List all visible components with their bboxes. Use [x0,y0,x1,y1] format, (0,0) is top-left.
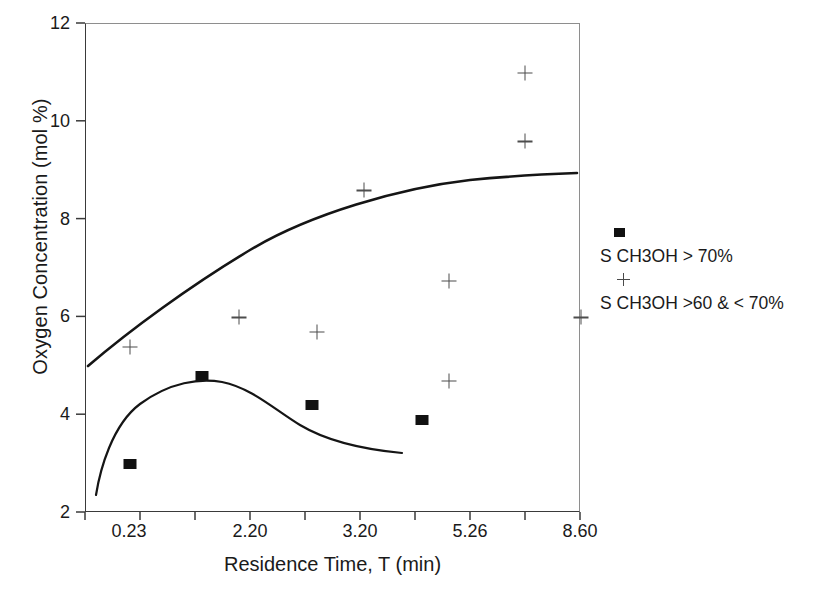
y-tick-label-2: 2 [36,502,70,523]
y-tick-label-12: 12 [36,13,70,34]
data-point-square-2 [305,400,318,410]
y-tick-label-8: 8 [36,208,70,229]
x-tick-label-3.20: 3.20 [342,521,377,542]
x-axis-title: Residence Time, T (min) [85,553,580,576]
data-point-plus-6 [518,65,533,80]
x-tick-label-5.26: 5.26 [452,521,487,542]
plus-icon [617,273,630,286]
data-point-plus-5 [442,373,457,388]
data-point-plus-1 [231,310,246,325]
data-point-plus-2 [310,325,325,340]
chart-legend: S CH3OH > 70% S CH3OH >60 & < 70% [600,222,818,316]
legend-entry-s-ch3oh-gt-70[interactable]: S CH3OH > 70% [600,222,818,267]
legend-label-s-ch3oh-60-70: S CH3OH >60 & < 70% [600,292,818,314]
x-tick-label-0.23: 0.23 [111,521,146,542]
legend-entry-s-ch3oh-60-70[interactable]: S CH3OH >60 & < 70% [600,269,818,314]
x-tick-label-8.60: 8.60 [562,521,597,542]
data-point-plus-7 [518,134,533,149]
y-axis-ticks [76,23,85,512]
plot-area [85,23,580,512]
data-point-square-3 [416,415,429,425]
y-axis-tick-labels: 24681012 [28,0,70,600]
data-point-plus-3 [356,183,371,198]
x-tick-label-2.20: 2.20 [232,521,267,542]
caption-remnant [38,586,778,598]
data-point-square-1 [195,371,208,381]
x-axis-ticks [85,512,580,520]
filled-square-icon [614,228,625,237]
figure-container: Oxygen Concentration (mol %) 24681012 0.… [0,0,818,600]
legend-marker-row [600,269,818,289]
y-tick-label-10: 10 [36,110,70,131]
legend-marker-row [600,222,818,242]
data-point-plus-8 [574,310,589,325]
y-tick-label-6: 6 [36,306,70,327]
x-axis-tick-labels: 0.232.203.205.268.60 [0,521,818,547]
legend-label-s-ch3oh-gt-70: S CH3OH > 70% [600,245,818,267]
data-point-plus-0 [123,339,138,354]
y-tick-label-4: 4 [36,404,70,425]
data-point-square-0 [124,459,137,469]
data-point-plus-4 [442,273,457,288]
